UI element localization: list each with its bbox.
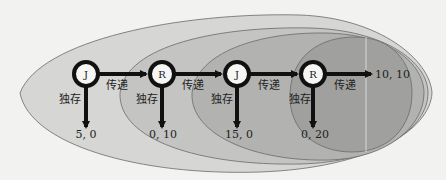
keep-label: 独存 xyxy=(211,92,233,106)
node-label: J xyxy=(83,69,88,80)
payoff-label: 5, 0 xyxy=(76,128,97,141)
node-label: R xyxy=(158,69,166,80)
payoff-label: 0, 10 xyxy=(149,128,177,141)
final-payoff-label: 10, 10 xyxy=(375,68,410,81)
keep-label: 独存 xyxy=(59,92,81,106)
node-4: R xyxy=(301,62,325,86)
keep-label: 独存 xyxy=(289,92,311,106)
pass-label: 传递 xyxy=(182,78,204,92)
node-2: R xyxy=(150,62,174,86)
node-label: J xyxy=(234,69,239,80)
keep-label: 独存 xyxy=(136,92,158,106)
centipede-game-diagram: J R J R 传递 传递 传递 传递 独存 独存 独存 独存 5, 0 0, … xyxy=(0,0,446,180)
payoff-label: 0, 20 xyxy=(301,128,329,141)
node-3: J xyxy=(225,62,249,86)
pass-label: 传递 xyxy=(258,78,280,92)
node-1: J xyxy=(74,62,98,86)
pass-label: 传递 xyxy=(106,78,128,92)
node-label: R xyxy=(309,69,317,80)
pass-label: 传递 xyxy=(334,78,356,92)
payoff-label: 15, 0 xyxy=(225,128,253,141)
